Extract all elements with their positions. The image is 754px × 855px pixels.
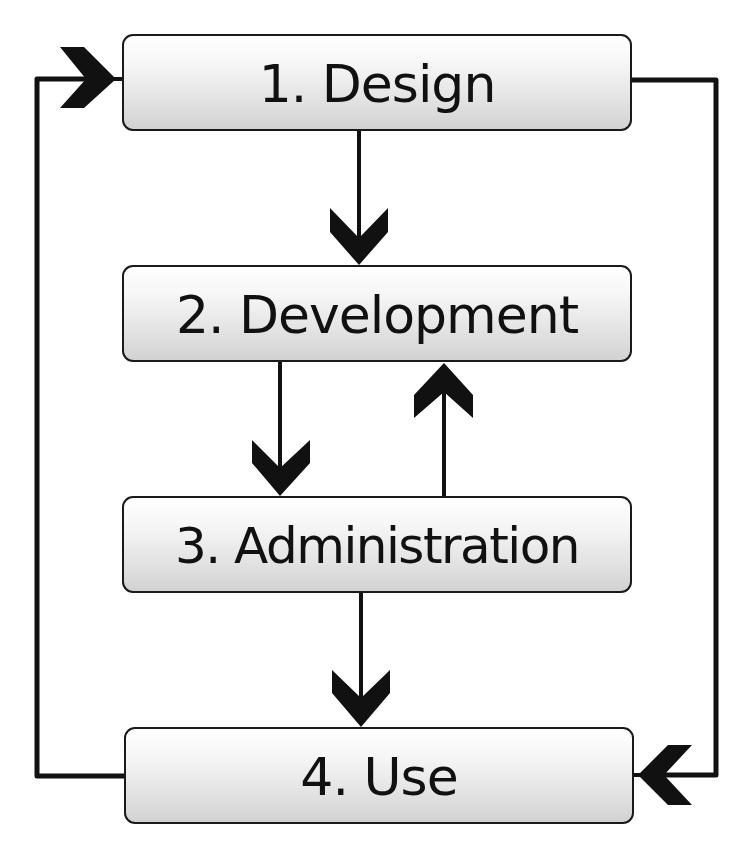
connector-development-to-administration [252, 362, 310, 496]
connector-use-to-design [37, 47, 124, 776]
stage-label-administration: 3. Administration [175, 519, 579, 571]
stage-box-design[interactable]: 1. Design [122, 34, 632, 131]
lifecycle-diagram: 1. Design 2. Development 3. Administrati… [0, 0, 754, 855]
stage-label-use: 4. Use [300, 749, 457, 803]
connector-design-to-development [330, 131, 388, 265]
stage-box-use[interactable]: 4. Use [124, 727, 634, 824]
connector-administration-to-use [332, 593, 390, 727]
connector-design-to-use [632, 80, 716, 805]
stage-label-design: 1. Design [259, 56, 496, 110]
stage-box-development[interactable]: 2. Development [122, 265, 632, 362]
stage-label-development: 2. Development [176, 287, 578, 341]
stage-box-administration[interactable]: 3. Administration [122, 496, 632, 593]
connector-administration-to-development [414, 363, 473, 496]
